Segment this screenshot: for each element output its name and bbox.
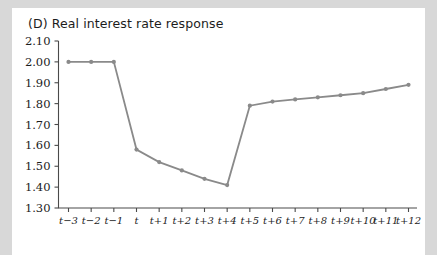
y-tick-label: 1.80 (25, 97, 51, 111)
data-point-marker (361, 91, 365, 95)
data-point-marker (89, 60, 93, 64)
y-tick-label: 1.40 (25, 180, 51, 194)
y-tick-label: 1.50 (25, 159, 51, 173)
figure-panel-d: (D) Real interest rate response 2.102.00… (0, 0, 437, 255)
x-tick-label: t−1 (104, 215, 123, 226)
y-axis-ticks: 2.102.001.901.801.701.601.501.401.30 (25, 34, 59, 215)
x-tick-label: t+3 (195, 215, 214, 226)
data-point-marker (248, 104, 252, 108)
data-point-marker (66, 60, 70, 64)
data-point-marker (406, 83, 410, 87)
x-tick-label: t+9 (331, 215, 350, 226)
x-tick-label: t+6 (263, 215, 282, 226)
x-axis-ticks: t−3t−2t−1tt+1t+2t+3t+4t+5t+6t+7t+8t+9t+1… (59, 208, 421, 226)
data-point-marker (384, 87, 388, 91)
series-group (66, 60, 410, 187)
x-tick-label: t (134, 215, 139, 226)
x-tick-label: t+5 (240, 215, 259, 226)
data-point-marker (316, 95, 320, 99)
chart-axes (59, 41, 418, 208)
y-tick-label: 2.00 (25, 55, 51, 69)
x-tick-label: t+7 (286, 215, 305, 226)
y-tick-label: 1.60 (25, 138, 51, 152)
x-tick-label: t+8 (308, 215, 327, 226)
y-tick-label: 1.30 (25, 201, 51, 215)
y-tick-label: 1.90 (25, 76, 51, 90)
data-point-marker (225, 183, 229, 187)
data-point-marker (270, 99, 274, 103)
x-tick-label: t+1 (150, 215, 169, 226)
data-point-marker (157, 160, 161, 164)
data-point-marker (134, 147, 138, 151)
y-tick-label: 2.10 (25, 34, 51, 48)
data-point-marker (338, 93, 342, 97)
data-point-marker (112, 60, 116, 64)
x-tick-label: t−3 (59, 215, 78, 226)
data-point-marker (202, 177, 206, 181)
x-tick-label: t−2 (82, 215, 101, 226)
series-line (69, 62, 409, 185)
x-tick-label: t+2 (172, 215, 191, 226)
y-tick-label: 1.70 (25, 118, 51, 132)
x-tick-label: t+4 (218, 215, 237, 226)
x-tick-label: t+12 (396, 215, 421, 226)
data-point-marker (180, 168, 184, 172)
axis-lines (59, 41, 418, 208)
x-tick-label: t+11 (373, 215, 398, 226)
data-point-marker (293, 97, 297, 101)
line-chart: 2.102.001.901.801.701.601.501.401.30t−3t… (0, 0, 437, 255)
